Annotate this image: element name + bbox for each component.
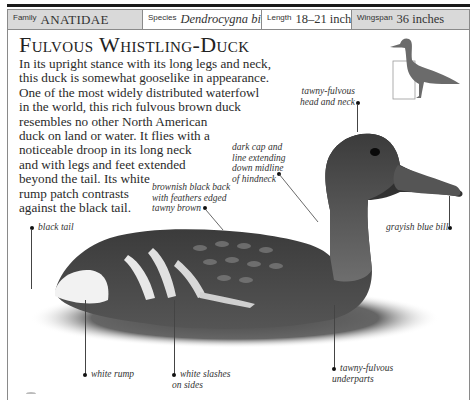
callout-bill: grayish blue bill (386, 222, 448, 233)
swimming-duck-illustration (0, 0, 474, 400)
callout-bill-dot (448, 226, 452, 230)
callout-white-rump: white rump (91, 369, 134, 380)
callout-black-tail-leader (31, 229, 32, 289)
callout-black-tail: black tail (38, 222, 74, 233)
callout-underparts-leader (334, 305, 335, 368)
callout-white-slashes-leader (174, 300, 175, 374)
callout-dark-cap: dark cap and line extending down midline… (232, 142, 286, 184)
callout-bill-leader (449, 196, 450, 226)
callout-head-neck-leader (357, 104, 358, 132)
callout-head-neck: tawny-fulvous head and neck (300, 86, 355, 107)
callout-back: brownish black back with feathers edged … (152, 182, 230, 214)
page-corner-mark (26, 392, 36, 396)
callout-underparts: tawny-fulvous underparts (332, 363, 393, 384)
callout-back-dot (203, 206, 207, 210)
callout-dark-cap-dot (277, 172, 281, 176)
callout-white-slashes: white slashes on sides (172, 369, 230, 390)
callout-white-rump-dot (83, 373, 87, 377)
callout-white-rump-leader (85, 300, 86, 374)
